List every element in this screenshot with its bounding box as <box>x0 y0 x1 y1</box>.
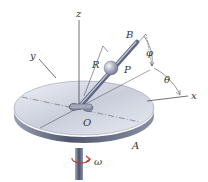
label-omega: ω <box>94 156 102 167</box>
sphere-P <box>104 61 118 75</box>
label-A: A <box>131 140 139 151</box>
pivot-pin <box>70 104 92 109</box>
label-z: z <box>75 8 82 19</box>
label-B: B <box>125 29 133 40</box>
x-axis <box>147 96 188 101</box>
drive-shaft <box>75 148 83 180</box>
rotating-disk-pendulum-diagram: z y x B R P φ θ O A ω <box>0 0 208 182</box>
label-x: x <box>191 90 197 101</box>
label-O: O <box>83 117 91 128</box>
label-phi: φ <box>146 47 153 58</box>
label-y: y <box>29 50 36 61</box>
R-arrow-icon <box>103 46 108 52</box>
y-axis <box>39 59 56 78</box>
label-theta: θ <box>164 74 170 85</box>
label-R: R <box>91 59 100 70</box>
label-P: P <box>123 64 131 75</box>
